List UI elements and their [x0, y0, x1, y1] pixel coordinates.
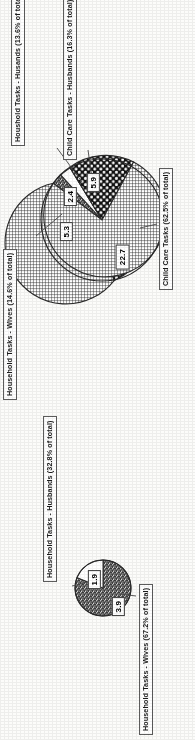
scanned-page: Houshold Tasks - Husands (13.6% of total… [0, 0, 195, 740]
pie2-value-3-9: 3.9 [112, 597, 125, 616]
pie2-legend-wives: Household Tasks - Wives (67.2% of total) [139, 584, 153, 735]
pie1-value-5-9: 5.9 [87, 173, 100, 192]
pie2-legend-husbands: Household Tasks - Husbands (32.8% of tot… [43, 416, 57, 582]
pie1-value-5-3: 5.3 [60, 222, 73, 241]
pie1-legend-childcare-husbands: Child Care Tasks - Husbands (16.3% of to… [63, 0, 77, 160]
pie1-value-2-4: 2.4 [64, 187, 77, 206]
pie-charts-canvas [0, 0, 195, 740]
pie1-legend-household-husands: Houshold Tasks - Husands (13.6% of total… [11, 0, 25, 146]
pie1-value-22-7: 22.7 [116, 244, 130, 269]
pie2-value-1-9: 1.9 [88, 570, 101, 589]
pie1-legend-household-wives: Household Tasks - Wives (14.6% of total) [3, 249, 17, 400]
pie1-legend-childcare: Child Care Tasks (62.5% of total) [159, 168, 173, 290]
